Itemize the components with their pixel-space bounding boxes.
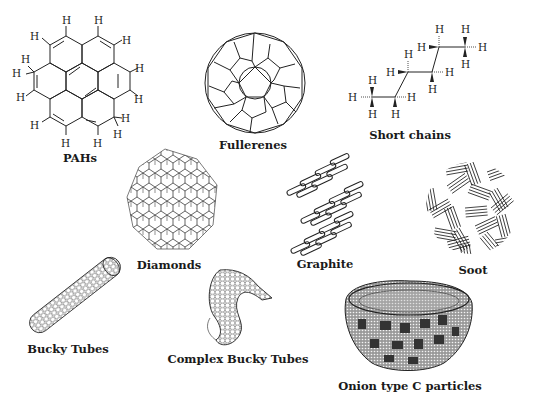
bucky-tubes-label: Bucky Tubes bbox=[27, 342, 108, 356]
complex-bucky-tubes-label: Complex Bucky Tubes bbox=[167, 352, 308, 366]
graphite-layers-icon bbox=[275, 160, 385, 255]
pahs-figure: H H H H H H H H H H H H H H PAHs bbox=[0, 0, 180, 160]
hydrogen-atom-label: H bbox=[21, 53, 30, 65]
hydrogen-atom-label: H bbox=[61, 137, 70, 149]
soot-particle-icon bbox=[425, 158, 520, 258]
graphite-figure: Graphite bbox=[275, 160, 385, 270]
hydrogen-atom-label: H bbox=[445, 66, 454, 78]
hydrogen-atom-label: H bbox=[121, 112, 130, 124]
soot-figure: Soot bbox=[425, 158, 520, 278]
fullerenes-label: Fullerenes bbox=[219, 138, 287, 152]
fullerenes-figure: Fullerenes bbox=[200, 28, 310, 153]
hydrogen-atom-label: H bbox=[348, 91, 357, 103]
hydrogen-atom-label: H bbox=[134, 93, 143, 105]
pah-molecule-icon: H H H H H H H H H H H H H H bbox=[0, 0, 180, 150]
hydrogen-atom-label: H bbox=[12, 67, 21, 79]
complex-bucky-tubes-figure: Complex Bucky Tubes bbox=[180, 268, 305, 368]
onion-particles-label: Onion type C particles bbox=[338, 379, 482, 393]
hydrogen-atom-label: H bbox=[368, 108, 377, 120]
fullerene-icon bbox=[200, 28, 310, 138]
complex-bucky-tube-icon bbox=[180, 268, 305, 348]
hydrogen-atom-label: H bbox=[391, 108, 400, 120]
hydrogen-atom-label: H bbox=[30, 30, 39, 42]
hydrogen-atom-label: H bbox=[113, 128, 122, 140]
hydrogen-atom-label: H bbox=[16, 91, 25, 103]
diamond-lattice-icon bbox=[125, 145, 225, 255]
hydrogen-atom-label: H bbox=[30, 119, 39, 131]
hydrogen-atom-label: H bbox=[461, 23, 470, 35]
onion-particles-figure: Onion type C particles bbox=[340, 275, 480, 395]
pahs-label: PAHs bbox=[63, 151, 97, 165]
hydrogen-atom-label: H bbox=[93, 137, 102, 149]
bucky-tube-icon bbox=[20, 250, 130, 340]
hydrogen-atom-label: H bbox=[94, 14, 103, 26]
onion-carbon-particle-icon bbox=[340, 275, 480, 375]
hydrogen-atom-label: H bbox=[461, 58, 470, 70]
hydrogen-atom-label: H bbox=[386, 66, 395, 78]
graphite-label: Graphite bbox=[297, 257, 354, 271]
hydrogen-atom-label: H bbox=[368, 74, 377, 86]
hydrogen-atom-label: H bbox=[407, 91, 416, 103]
short-chains-figure: H H H H H H H H H H H H H H Short chains bbox=[340, 20, 530, 145]
hydrogen-atom-label: H bbox=[428, 83, 437, 95]
short-chain-hydrocarbon-icon: H H H H H H H H H H H H H H bbox=[340, 20, 530, 130]
hydrogen-atom-label: H bbox=[435, 23, 444, 35]
diamonds-figure: Diamonds bbox=[125, 145, 225, 275]
hydrogen-atom-label: H bbox=[478, 41, 487, 53]
bucky-tubes-figure: Bucky Tubes bbox=[20, 250, 130, 360]
hydrogen-atom-label: H bbox=[417, 41, 426, 53]
short-chains-label: Short chains bbox=[369, 128, 451, 142]
hydrogen-atom-label: H bbox=[135, 62, 144, 74]
hydrogen-atom-label: H bbox=[122, 34, 131, 46]
hydrogen-atom-label: H bbox=[62, 14, 71, 26]
hydrogen-atom-label: H bbox=[404, 48, 413, 60]
